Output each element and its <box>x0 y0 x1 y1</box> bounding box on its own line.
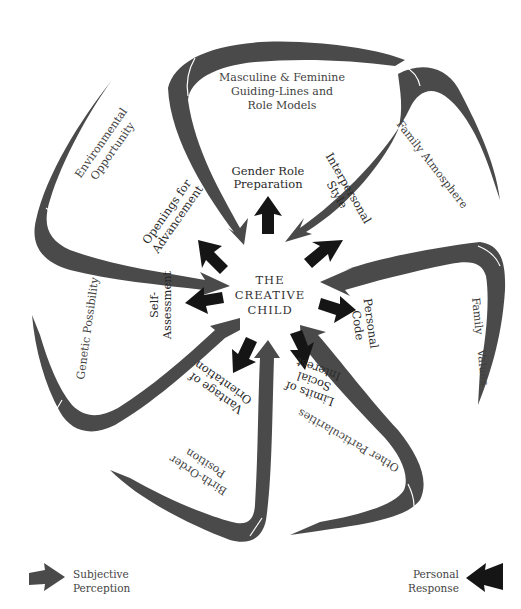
svg-text:Masculine & Feminine: Masculine & Feminine <box>219 71 345 84</box>
label-gender-role: Gender Role Preparation <box>232 164 305 191</box>
svg-text:CHILD: CHILD <box>247 303 292 317</box>
response-arrow-interpersonal <box>304 240 343 268</box>
legend-perception-label: Subjective Perception <box>73 567 130 595</box>
label-family-atmosphere: Family Atmosphere <box>394 118 471 211</box>
svg-text:Code: Code <box>349 309 367 341</box>
label-birth-order: Birth-Order Position <box>166 440 236 498</box>
legend-perception-icon <box>29 563 65 591</box>
response-arrow-vantage <box>232 337 257 373</box>
label-personal-code: Personal Code <box>348 298 382 352</box>
perception-arrow-other-particularities <box>290 325 424 535</box>
svg-text:THE: THE <box>255 273 284 287</box>
svg-text:Values: Values <box>474 348 491 387</box>
svg-text:Guiding-Lines and: Guiding-Lines and <box>231 85 333 98</box>
svg-text:Gender Role: Gender Role <box>232 164 305 178</box>
svg-text:Assessment: Assessment <box>160 270 174 340</box>
svg-text:CREATIVE: CREATIVE <box>235 288 305 302</box>
label-environmental-opportunity: Environmental Opportunity <box>72 105 142 188</box>
response-arrow-gender-role <box>254 196 282 234</box>
label-masculine-feminine: Masculine & Feminine Guiding-Lines and R… <box>219 71 345 112</box>
legend-response-icon <box>466 563 503 592</box>
legend-response-label: Personal Response <box>408 567 459 595</box>
svg-text:Family: Family <box>469 297 486 336</box>
label-other-particularities: Other Particularities <box>295 406 401 475</box>
svg-text:Self-: Self- <box>147 292 161 318</box>
response-arrow-openings <box>198 240 228 274</box>
label-openings-advancement: Openings for Advancement <box>138 175 206 257</box>
creative-child-diagram: THE CREATIVE CHILD Masculine & Feminine … <box>0 0 521 609</box>
svg-text:Role Models: Role Models <box>247 99 316 112</box>
svg-text:Preparation: Preparation <box>233 177 303 191</box>
center-label: THE CREATIVE CHILD <box>235 273 305 317</box>
label-genetic-possibility: Genetic Possibility <box>74 276 101 381</box>
